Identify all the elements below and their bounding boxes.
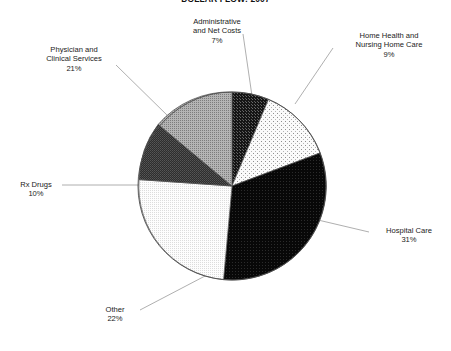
leader-line-physician <box>116 65 170 118</box>
slice-percent: 7% <box>174 36 260 45</box>
slice-label-line1: Other <box>90 305 140 314</box>
slice-label-line2: and Net Costs <box>174 26 260 35</box>
leader-line-hospital-care <box>318 220 369 232</box>
slice-label-administrative-and-net-costs: Administrative and Net Costs 7% <box>174 17 260 45</box>
slice-label-physician-and-clinical-services: Physician and Clinical Services 21% <box>32 45 116 73</box>
slice-label-line1: Home Health and <box>336 31 442 40</box>
slice-percent: 21% <box>32 64 116 73</box>
leader-line-home-health <box>295 48 333 104</box>
slice-label-line1: Rx Drugs <box>10 180 62 189</box>
slice-label-other: Other 22% <box>90 305 140 324</box>
slice-label-line2: Nursing Home Care <box>336 40 442 49</box>
slice-percent: 9% <box>336 50 442 59</box>
pie-chart-figure: DOLLAR FLOW: 2007 <box>0 0 451 351</box>
slice-percent: 31% <box>372 235 446 244</box>
slice-label-hospital-care: Hospital Care 31% <box>372 226 446 245</box>
slice-percent: 10% <box>10 189 62 198</box>
slice-label-rx-drugs: Rx Drugs 10% <box>10 180 62 199</box>
slice-label-line1: Administrative <box>174 17 260 26</box>
slice-percent: 22% <box>90 314 140 323</box>
leader-line-other <box>140 276 205 310</box>
pie-slices <box>139 92 326 280</box>
pie-slice-other[interactable] <box>139 180 232 280</box>
slice-label-home-health-and-nursing-home-care: Home Health and Nursing Home Care 9% <box>336 31 442 59</box>
slice-label-line1: Physician and <box>32 45 116 54</box>
slice-label-line2: Clinical Services <box>32 54 116 63</box>
slice-label-line1: Hospital Care <box>372 226 446 235</box>
